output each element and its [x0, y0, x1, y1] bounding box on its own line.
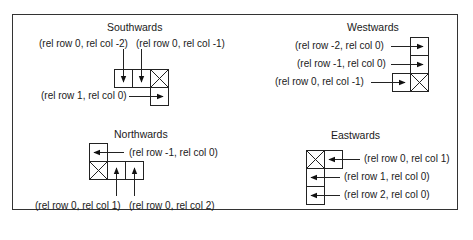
north-label-3: (rel row 0, rel col 2)	[129, 200, 215, 212]
south-label-1: (rel row 0, rel col -2)	[39, 38, 128, 50]
north-label-1: (rel row -1, rel col 0)	[129, 147, 218, 159]
west-label-3: (rel row 0, rel col -1)	[275, 76, 364, 88]
east-label-2: (rel row 1, rel col 0)	[344, 171, 430, 183]
east-label-1: (rel row 0, rel col 1)	[364, 153, 450, 165]
west-title: Westwards	[347, 21, 399, 33]
east-label-3: (rel row 2, rel col 0)	[344, 189, 430, 201]
south-title: Southwards	[107, 21, 162, 33]
west-label-2: (rel row -1, rel col 0)	[297, 58, 386, 70]
south-label-3: (rel row 1, rel col 0)	[41, 90, 127, 102]
east-title: Eastwards	[331, 129, 380, 141]
north-label-2: (rel row 0, rel col 1)	[35, 200, 121, 212]
south-label-2: (rel row 0, rel col -1)	[136, 38, 225, 50]
west-label-1: (rel row -2, rel col 0)	[295, 40, 384, 52]
north-title: Northwards	[114, 128, 168, 140]
